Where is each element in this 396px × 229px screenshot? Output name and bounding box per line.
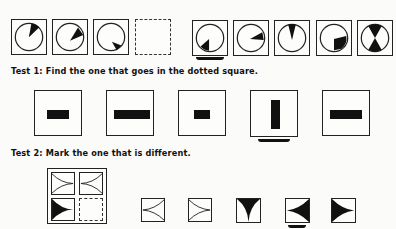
curved-arrow-filled-icon [237, 199, 260, 222]
answer-mark [288, 225, 306, 228]
curved-arrow-outline-icon [142, 199, 164, 221]
example-stimulus-3 [93, 19, 129, 55]
curved-arrow-outline-icon [52, 173, 74, 194]
test1-label: Test 1: Find the one that goes in the do… [11, 66, 258, 76]
horizontal-bar-icon [47, 110, 69, 119]
horizontal-bar-icon [330, 110, 362, 119]
curved-arrow-outline-icon [80, 173, 102, 194]
wedge-circle-icon [53, 20, 87, 54]
test2-matrix [47, 168, 107, 224]
cropped-heading [2, 0, 102, 4]
example-option-1[interactable] [192, 20, 228, 56]
wedge-circle-icon [12, 20, 46, 54]
test2-option-3[interactable] [236, 198, 261, 223]
wedge-circle-icon [94, 20, 128, 54]
example-missing-square [135, 19, 171, 55]
example-stimulus-2 [52, 19, 88, 55]
example-stimulus-1 [11, 19, 47, 55]
curved-arrow-filled-icon [52, 199, 74, 220]
matrix-cell-1 [51, 172, 75, 195]
horizontal-bar-icon [114, 110, 150, 119]
test2-option-1[interactable] [141, 198, 165, 222]
example-option-5[interactable] [357, 20, 393, 56]
curved-arrow-outline-icon [189, 199, 211, 221]
test2-option-5[interactable] [331, 198, 356, 223]
example-option-3[interactable] [274, 20, 310, 56]
answer-mark [196, 57, 224, 60]
test1-option-1[interactable] [34, 90, 82, 136]
answer-mark [258, 139, 290, 142]
wedge-circle-icon [193, 21, 227, 55]
test1-option-4[interactable] [250, 90, 298, 137]
wedge-circle-icon [234, 21, 268, 55]
vertical-bar-icon [271, 100, 280, 129]
example-option-4[interactable] [316, 20, 352, 56]
matrix-cell-2 [79, 172, 103, 195]
hourglass-circle-icon [358, 21, 392, 55]
horizontal-bar-icon [194, 110, 210, 119]
test1-option-3[interactable] [178, 90, 226, 136]
test2-option-2[interactable] [188, 198, 212, 222]
test2-label: Test 2: Mark the one that is different. [11, 148, 191, 158]
curved-arrow-filled-icon [332, 199, 355, 222]
wedge-circle-icon [317, 21, 351, 55]
wedge-circle-icon [275, 21, 309, 55]
example-option-2[interactable] [233, 20, 269, 56]
curved-arrow-filled-icon [286, 199, 309, 222]
test1-option-5[interactable] [322, 90, 370, 136]
matrix-missing-cell [79, 198, 103, 221]
matrix-cell-3 [51, 198, 75, 221]
test2-option-4[interactable] [285, 198, 310, 223]
test1-option-2[interactable] [106, 90, 154, 136]
